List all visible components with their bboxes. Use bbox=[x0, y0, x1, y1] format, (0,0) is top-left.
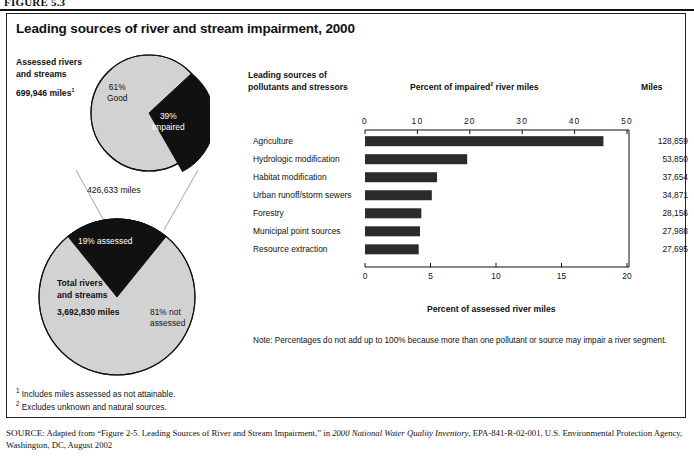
source-publication-title: 2000 National Water Quality Inventory bbox=[332, 428, 468, 438]
bar-chart-axes-and-bars bbox=[0, 0, 694, 300]
chart-note: Note: Percentages do not add up to 100% … bbox=[253, 336, 667, 345]
bar bbox=[365, 136, 603, 146]
bottom-axis-title: Percent of assessed river miles bbox=[427, 304, 556, 314]
source-note: SOURCE: Adapted from “Figure 2-5. Leadin… bbox=[6, 428, 688, 451]
bar bbox=[365, 226, 420, 236]
footnote-2-marker: 2 bbox=[16, 400, 20, 407]
bar bbox=[365, 154, 467, 164]
bottom-pie-total: 3,692,830 miles bbox=[57, 307, 120, 319]
footnote-2: 2 Excludes unknown and natural sources. bbox=[16, 403, 167, 412]
source-text-1: Adapted from “Figure 2-5. Leading Source… bbox=[45, 428, 332, 438]
bar bbox=[365, 244, 419, 254]
footnote-2-text: Excludes unknown and natural sources. bbox=[22, 403, 167, 412]
footnote-1: 1 Includes miles assessed as not attaina… bbox=[16, 390, 175, 399]
bottom-pie-not-assessed-label: 81% not assessed bbox=[150, 307, 185, 329]
bottom-pie-not-assessed-line1: 81% not bbox=[150, 307, 181, 317]
footnote-1-marker: 1 bbox=[16, 387, 20, 394]
bottom-pie-not-assessed-line2: assessed bbox=[150, 318, 185, 328]
bar bbox=[365, 208, 421, 218]
bar bbox=[365, 190, 432, 200]
footnote-1-text: Includes miles assessed as not attainabl… bbox=[22, 390, 175, 399]
bar bbox=[365, 172, 437, 182]
source-prefix: SOURCE: bbox=[6, 428, 45, 438]
